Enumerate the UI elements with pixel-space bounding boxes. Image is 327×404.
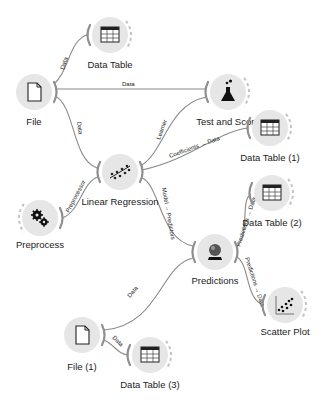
link-file-to-test-and-score[interactable]: Data [56,81,206,89]
node-label: Scatter Plot [260,326,309,337]
workflow-canvas[interactable]: Data Data Data Learner Coefficients → Da… [0,0,327,404]
node-label: Data Table (2) [242,217,302,228]
link-label: Data [59,56,69,71]
link-file-1-to-data-table-3[interactable]: Data [104,334,129,355]
node-data-table-2[interactable]: Data Table (2) [242,175,302,228]
table-icon [263,185,281,200]
link-label: Data [122,81,135,87]
node-label: File [26,116,41,127]
node-preprocess[interactable]: Preprocess [16,200,64,250]
node-label: Predictions [192,275,239,286]
link-label: Learner [155,119,168,140]
node-label: Data Table (1) [240,152,300,163]
node-file-1[interactable]: File (1) [64,317,104,372]
link-label: Data [126,285,139,299]
node-predictions[interactable]: Predictions [192,234,239,286]
node-file[interactable]: File [16,74,56,127]
node-linear-regression[interactable]: Linear Regression [81,154,158,207]
link-label: Coefficients → Data [168,135,221,159]
link-linear-regression-to-predictions[interactable]: Model → Predictors [142,178,193,246]
link-file-to-data-table[interactable]: Data [55,34,89,83]
table-icon [101,27,119,42]
node-label: File (1) [67,361,97,372]
file-icon [28,83,41,101]
link-file-1-to-predictions[interactable]: Data [104,258,193,330]
link-label: Data [76,121,84,135]
node-label: Preprocess [16,239,64,250]
node-label: Linear Regression [81,196,158,207]
node-scatter-plot[interactable]: Scatter Plot [260,287,309,337]
link-label: Model → Predictors [161,187,176,240]
link-file-to-linear-regression[interactable]: Data [55,96,97,168]
node-data-table[interactable]: Data Table [87,17,132,70]
node-label: Data Table (3) [120,379,180,390]
node-data-table-3[interactable]: Data Table (3) [120,337,180,390]
file-icon [76,326,89,344]
table-icon [141,347,159,362]
node-data-table-1[interactable]: Data Table (1) [240,110,300,163]
node-label: Data Table [87,59,132,70]
link-predictions-to-scatter-plot[interactable]: Predictions → Data [237,256,266,308]
table-icon [261,120,279,135]
